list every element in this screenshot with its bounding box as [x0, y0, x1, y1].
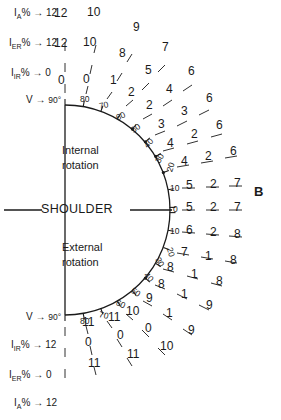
value-ir-90-v3: 12: [54, 7, 67, 19]
legend-top-symbol-0: IA%: [14, 7, 30, 18]
shoulder-label: SHOULDER: [41, 203, 113, 216]
legend-top-symbol-3: V: [26, 94, 33, 105]
angle-tick-ir-10: 10: [170, 184, 179, 193]
value-ir-10-v2: 2: [210, 178, 217, 190]
value-er-70-v3: 11: [127, 348, 139, 360]
value-ir-80-v1: 0: [83, 73, 90, 85]
value-er-10-v3: 8: [234, 228, 241, 240]
legend-bottom-symbol-3: IA%: [14, 397, 30, 408]
value-er-50-v2: 1: [166, 307, 173, 319]
legend-bottom-arrow-3: →: [33, 397, 43, 408]
legend-bottom-value-1: 12: [45, 339, 56, 350]
value-ir-20-v3: 6: [230, 145, 237, 157]
legend-bottom-value-0: 90°: [48, 312, 61, 322]
value-er-80-v1: 11: [82, 316, 94, 328]
value-ir-50-v3: 6: [188, 65, 195, 77]
value-er-20-v1: 7: [181, 246, 188, 258]
legend-bottom-arrow-2: →: [33, 369, 43, 380]
value-er-50-v1: 9: [146, 292, 153, 304]
legend-top-arrow-2: →: [32, 67, 42, 78]
legend-top-arrow-1: →: [33, 37, 43, 48]
legend-bottom-arrow-1: →: [32, 339, 42, 350]
legend-top-row-3: V → 90°: [26, 95, 61, 105]
legend-top-value-3: 90°: [48, 95, 61, 105]
value-er-10-v1: 6: [186, 224, 193, 236]
value-ir-80-v2: 10: [83, 36, 96, 48]
legend-bottom-value-2: 0: [46, 369, 52, 380]
internal-rotation-label-line2: rotation: [62, 160, 99, 171]
legend-bottom-arrow-0: →: [35, 311, 45, 322]
value-er-50-v3: 9: [188, 324, 195, 336]
angle-tick-ir-80: 80: [80, 95, 89, 104]
value-ir-70-v1: 1: [110, 74, 117, 86]
value-ir-70-v2: 8: [119, 47, 126, 59]
internal-rotation-label-line1: Internal: [62, 145, 99, 156]
value-ir-20-v1: 4: [181, 155, 188, 167]
panel-label-b: B: [254, 185, 263, 198]
legend-bottom-symbol-1: IIR%: [11, 339, 30, 350]
value-center-0-v3: 7: [234, 201, 241, 213]
legend-bottom-row-3: IA% → 12: [14, 398, 57, 410]
value-ir-10-v1: 5: [186, 179, 193, 191]
value-er-60-v1: 10: [126, 305, 139, 317]
value-ir-90-v2: 12: [54, 37, 67, 49]
legend-bottom-row-2: IER% → 0: [9, 370, 52, 382]
value-er-70-v2: 0: [117, 329, 124, 341]
legend-bottom-symbol-0: V: [26, 311, 33, 322]
value-ir-40-v3: 6: [206, 92, 213, 104]
legend-bottom-symbol-2: IER%: [9, 369, 30, 380]
value-er-40-v1: 8: [158, 278, 165, 290]
value-ir-40-v1: 3: [158, 118, 165, 130]
value-er-40-v2: 1: [181, 288, 188, 300]
value-er-60-v3: 10: [160, 340, 173, 352]
value-ir-30-v1: 4: [167, 137, 174, 149]
value-ir-60-v3: 7: [162, 41, 169, 53]
value-ir-30-v3: 6: [216, 119, 223, 131]
value-er-40-v3: 9: [206, 299, 213, 311]
value-center-0-v1: 5: [186, 201, 193, 213]
external-rotation-label-line2: rotation: [62, 257, 99, 268]
legend-top-value-2: 0: [45, 67, 51, 78]
value-ir-20-v2: 2: [205, 150, 212, 162]
angle-tick-center-0: 0: [173, 205, 178, 214]
figure-canvas: IA% → 12 IER% → 12 IIR% → 0 V → 90° V → …: [0, 0, 281, 420]
value-er-30-v2: 1: [191, 268, 198, 280]
legend-top-arrow-3: →: [35, 94, 45, 105]
angle-tick-ir-70: 70: [98, 100, 109, 110]
legend-top-row-1: IER% → 12: [9, 38, 57, 50]
legend-bottom-row-1: IIR% → 12: [11, 340, 56, 352]
value-ir-60-v1: 2: [128, 86, 135, 98]
value-ir-80-v3: 10: [87, 6, 100, 18]
legend-top-arrow-0: →: [33, 7, 43, 18]
value-er-30-v1: 8: [167, 261, 174, 273]
value-er-10-v2: 2: [210, 226, 217, 238]
angle-tick-er-10: 10: [170, 227, 179, 236]
value-er-30-v3: 8: [216, 275, 223, 287]
value-center-0-v2: 2: [210, 201, 217, 213]
value-er-20-v2: 1: [205, 250, 212, 262]
legend-top-row-0: IA% → 12: [14, 8, 57, 20]
legend-bottom-value-3: 12: [46, 397, 57, 408]
value-ir-50-v2: 4: [166, 83, 173, 95]
value-ir-40-v2: 3: [181, 105, 188, 117]
value-er-70-v1: 11: [108, 311, 120, 323]
value-ir-60-v2: 5: [145, 64, 152, 76]
value-er-80-v3: 11: [88, 357, 100, 369]
legend-top-symbol-1: IER%: [9, 37, 30, 48]
value-er-20-v3: 8: [230, 254, 237, 266]
value-ir-30-v2: 2: [191, 128, 198, 140]
value-ir-70-v3: 9: [133, 21, 140, 33]
legend-bottom-row-0: V → 90°: [26, 312, 61, 322]
legend-top-row-2: IIR% → 0: [11, 68, 51, 80]
value-er-60-v2: 0: [145, 322, 152, 334]
value-ir-90-v1: 0: [58, 74, 65, 86]
legend-top-symbol-2: IIR%: [11, 67, 30, 78]
value-er-80-v2: 0: [85, 336, 92, 348]
value-ir-50-v1: 2: [146, 99, 153, 111]
external-rotation-label-line1: External: [62, 242, 102, 253]
value-ir-10-v3: 7: [234, 177, 241, 189]
